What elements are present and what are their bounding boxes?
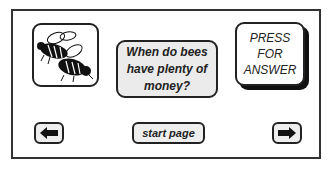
forward-button[interactable] [272,122,302,144]
press-for-answer-button[interactable]: PRESS FOR ANSWER [235,22,305,86]
bees-icon [34,25,97,85]
arrow-right-icon [278,127,296,139]
arrow-left-icon [40,127,58,139]
back-button[interactable] [34,122,64,144]
bees-image-card [32,23,99,87]
start-page-button[interactable]: start page [132,122,205,144]
press-for-answer-label: PRESS FOR ANSWER [240,30,300,78]
question-text: When do bees have plenty of money? [121,44,213,95]
start-page-label: start page [142,127,195,139]
question-card: When do bees have plenty of money? [116,40,218,98]
